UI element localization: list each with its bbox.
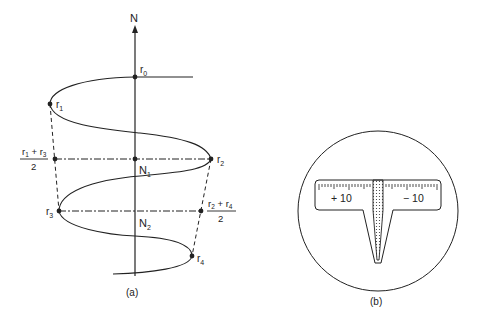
label-r2: r2 [217,154,224,167]
caption-b: (b) [370,296,382,307]
label-n1: N1 [139,164,151,178]
figure-b: + 10 − 10 (b) [298,131,458,307]
point-n1 [133,157,138,162]
caption-a: (a) [126,287,138,298]
svg-text:r2 + r4: r2 + r4 [208,198,233,210]
svg-text:2: 2 [31,161,36,172]
svg-text:r1 + r3: r1 + r3 [22,146,47,158]
scale-label-minus: − 10 [403,192,424,204]
svg-text:2: 2 [218,213,223,224]
n-axis-arrow-icon [132,25,138,33]
label-mean-r1-r3: r1 + r3 2 [20,146,48,172]
point-mean24 [199,209,204,214]
label-mean-r2-r4: r2 + r4 2 [207,198,236,224]
point-r2 [209,157,214,162]
diagram-canvas: N r0 r1 r2 r3 r4 N1 N2 r1 + r3 2 [0,0,477,320]
figure-a: N r0 r1 r2 r3 r4 N1 N2 r1 + r3 2 [20,12,236,298]
point-r0 [133,75,138,80]
n-axis-label: N [130,12,138,24]
label-r3: r3 [46,206,53,219]
oscillation-curve [50,77,211,274]
label-r4: r4 [197,253,204,266]
point-mean13 [53,157,58,162]
label-r0: r0 [140,64,147,77]
label-n2: N2 [139,217,151,231]
point-r3 [57,209,62,214]
point-r1 [48,102,53,107]
label-r1: r1 [56,99,63,112]
scale-label-plus: + 10 [331,192,352,204]
point-r4 [190,254,195,259]
